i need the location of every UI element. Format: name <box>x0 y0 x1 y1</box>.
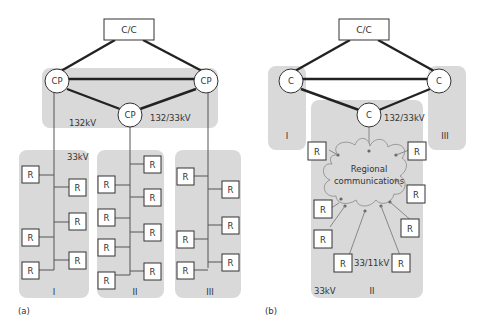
svg-text:R: R <box>314 147 320 157</box>
figure-a: C/C CP CP CP 132kV 132/33kV 33kV R R R R… <box>18 19 241 316</box>
svg-text:R: R <box>407 224 413 234</box>
figure-b: Regional communications C/C <box>265 19 466 316</box>
svg-text:R: R <box>183 266 189 276</box>
control-point-right-label: CP <box>200 76 211 86</box>
label-132-33kv-b: 132/33kV <box>384 113 425 123</box>
svg-text:R: R <box>104 180 110 190</box>
svg-text:R: R <box>28 266 34 276</box>
region-iii-b-label: III <box>441 131 449 141</box>
cloud-label-line2: communications <box>334 176 405 186</box>
label-33kv-b: 33kV <box>314 286 336 296</box>
svg-text:R: R <box>340 259 346 269</box>
svg-text:R: R <box>183 235 189 245</box>
svg-text:R: R <box>398 259 404 269</box>
svg-text:R: R <box>413 190 419 200</box>
control-point-center-label: CP <box>124 110 135 120</box>
svg-text:R: R <box>228 258 234 268</box>
svg-text:R: R <box>150 267 156 277</box>
svg-text:R: R <box>28 233 34 243</box>
label-33kv: 33kV <box>67 152 89 162</box>
cloud-label-line1: Regional <box>351 164 388 174</box>
control-node-right-label: C <box>436 76 442 86</box>
svg-text:R: R <box>150 160 156 170</box>
svg-text:R: R <box>75 183 81 193</box>
svg-text:R: R <box>414 147 420 157</box>
svg-text:R: R <box>320 235 326 245</box>
control-node-left-label: C <box>288 76 294 86</box>
svg-text:R: R <box>183 172 189 182</box>
label-33-11kv: 33/11kV <box>354 258 389 268</box>
figure-a-caption: (a) <box>18 306 30 316</box>
label-132-33kv: 132/33kV <box>150 113 191 123</box>
svg-text:R: R <box>28 170 34 180</box>
control-point-left-label: CP <box>51 76 62 86</box>
svg-text:R: R <box>228 221 234 231</box>
control-node-center-label: C <box>366 110 372 120</box>
svg-text:R: R <box>150 228 156 238</box>
control-centre-label-b: C/C <box>356 25 372 35</box>
svg-text:R: R <box>228 185 234 195</box>
region-iii-label: III <box>206 287 214 297</box>
svg-text:R: R <box>104 243 110 253</box>
svg-text:R: R <box>75 256 81 266</box>
control-centre-label: C/C <box>121 25 137 35</box>
scada-diagram: C/C CP CP CP 132kV 132/33kV 33kV R R R R… <box>0 0 480 333</box>
label-132kv: 132kV <box>69 118 96 128</box>
region-ii-b-label: II <box>369 286 374 296</box>
svg-text:R: R <box>150 193 156 203</box>
figure-b-caption: (b) <box>265 306 277 316</box>
region-ii-label: II <box>132 287 137 297</box>
svg-text:R: R <box>320 205 326 215</box>
svg-text:R: R <box>75 217 81 227</box>
region-i-label: I <box>53 287 56 297</box>
svg-text:R: R <box>104 213 110 223</box>
svg-text:R: R <box>104 276 110 286</box>
region-i-b-label: I <box>286 131 289 141</box>
